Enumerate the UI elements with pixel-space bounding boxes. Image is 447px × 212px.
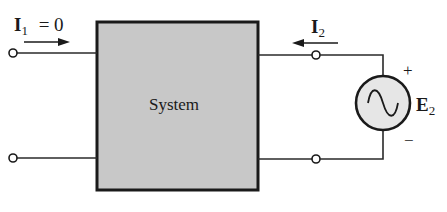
output-top-terminal <box>312 51 320 59</box>
e2-symbol: E <box>416 94 429 115</box>
input-bottom-terminal <box>9 154 17 162</box>
source-negative-sign: − <box>404 131 414 151</box>
source-bottom-wire <box>320 130 383 159</box>
two-port-diagram: System I1 = 0 I2 + − E2 <box>0 0 447 212</box>
i1-equation: = 0 <box>39 14 64 35</box>
e2-label: E2 <box>416 94 435 116</box>
i1-label: I1 = 0 <box>14 14 64 36</box>
source-top-wire <box>320 55 383 76</box>
i2-subscript: 2 <box>318 25 325 40</box>
i2-label: I2 <box>311 16 325 38</box>
e2-subscript: 2 <box>429 103 436 118</box>
output-bottom-terminal <box>312 155 320 163</box>
circuit-drawing <box>0 0 447 212</box>
i2-arrow-head-icon <box>292 39 304 47</box>
i1-arrow-head-icon <box>58 38 70 46</box>
system-label: System <box>149 95 199 115</box>
source-positive-sign: + <box>403 61 413 81</box>
input-top-terminal <box>9 49 17 57</box>
i1-subscript: 1 <box>21 23 28 38</box>
